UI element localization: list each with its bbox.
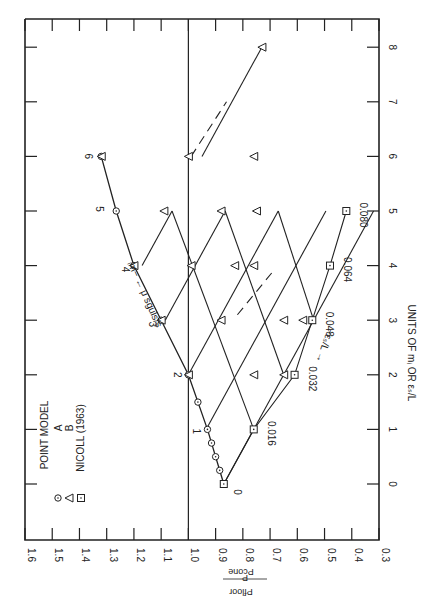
- x-tick-label: 8: [387, 44, 398, 50]
- triangle-marker: [280, 371, 288, 379]
- x-tick-label: 0: [387, 481, 398, 487]
- m-value-label: 6: [83, 154, 94, 160]
- eps-value-label: 0.080: [358, 202, 369, 227]
- triangle-marker: [160, 207, 168, 215]
- y-tick-label: 0.7: [271, 548, 282, 562]
- x-tick-label: 3: [387, 317, 398, 323]
- eps-direction-label: −εₛ/L →: [314, 328, 336, 365]
- y-tick-label: 1.2: [135, 548, 146, 562]
- y-tick-label: 0.4: [353, 548, 364, 562]
- triangle-marker: [299, 316, 307, 324]
- svg-text:Pcone: Pcone: [228, 567, 254, 577]
- x-axis-title: UNITS OF mᵢ OR εₛ/L: [406, 305, 417, 402]
- legend-label: NICOLL (1963): [75, 404, 86, 471]
- m-direction-label: ᵢm− ← μ sguls/s: [126, 260, 165, 329]
- triangle-marker: [217, 207, 225, 215]
- legend-title: POINT MODEL: [39, 400, 50, 469]
- eps-value-label: 0.032: [307, 366, 318, 391]
- y-tick-label: 1.5: [53, 548, 64, 562]
- eps-value-label: 0.016: [266, 421, 277, 446]
- triangle-marker: [258, 43, 266, 51]
- y-tick-label: 0.9: [217, 548, 228, 562]
- eps-value-label: 0.064: [342, 257, 353, 282]
- m-value-label: 2: [172, 372, 183, 378]
- y-tick-label: 0.8: [244, 548, 255, 562]
- rotated-chart: 1.61.51.41.31.21.11.00.90.80.70.60.50.40…: [0, 0, 425, 613]
- svg-text:Pfloor: Pfloor: [229, 587, 253, 597]
- y-tick-label: 0.3: [380, 548, 391, 562]
- triangle-marker: [65, 494, 73, 502]
- triangle-marker: [231, 262, 239, 270]
- y-tick-label: 0.5: [326, 548, 337, 562]
- y-tick-label: 1.1: [162, 548, 173, 562]
- x-tick-label: 4: [387, 263, 398, 269]
- x-tick-label: 5: [387, 208, 398, 214]
- triangle-marker: [250, 152, 258, 160]
- x-tick-label: 1: [387, 427, 398, 433]
- y-tick-label: 1.6: [26, 548, 37, 562]
- m-value-label: 1: [191, 429, 202, 435]
- y-tick-label: 1.3: [108, 548, 119, 562]
- x-tick-label: 2: [387, 372, 398, 378]
- x-tick-label: 6: [387, 154, 398, 160]
- triangle-marker: [280, 316, 288, 324]
- m-value-label: 0: [232, 489, 243, 495]
- y-tick-label: 0.6: [298, 548, 309, 562]
- triangle-marker: [217, 316, 225, 324]
- y-tick-label: 1.0: [189, 548, 200, 562]
- legend-label: A: [53, 424, 64, 431]
- triangle-marker: [252, 207, 260, 215]
- y-tick-label: 1.4: [80, 548, 91, 562]
- m-value-label: 5: [94, 206, 105, 212]
- triangle-marker: [250, 371, 258, 379]
- legend-label: B: [64, 424, 75, 431]
- x-tick-label: 7: [387, 99, 398, 105]
- triangle-marker: [250, 262, 258, 270]
